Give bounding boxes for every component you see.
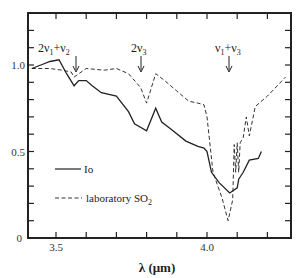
axis-ticks [28,13,291,238]
plot-frame [28,13,291,238]
x-tick-label-4.0: 4.0 [200,241,214,253]
spectrum-chart: 0 0.5 1.0 3.5 4.0 λ (μm) 2ν1+ν2 2ν3 ν1+ν… [0,0,301,278]
annotation-2v1-v2: 2ν1+ν2 [38,41,79,72]
svg-text:2ν3: 2ν3 [131,41,146,57]
svg-text:2ν1+ν2: 2ν1+ν2 [38,41,70,57]
annotation-2v3: 2ν3 [131,41,146,72]
y-tick-label-0: 0 [17,232,23,244]
io-curve [32,60,262,193]
y-tick-label-0.5: 0.5 [11,146,25,158]
y-tick-label-1.0: 1.0 [11,59,25,71]
x-axis-label: λ (μm) [139,260,176,275]
legend: Io laboratory SO2 [55,163,152,207]
x-tick-label-3.5: 3.5 [49,241,63,253]
svg-text:ν1+ν3: ν1+ν3 [215,41,241,57]
legend-so2-label: laboratory SO2 [86,192,152,207]
legend-io-label: Io [84,163,94,175]
annotation-v1-v3: ν1+ν3 [215,41,241,72]
